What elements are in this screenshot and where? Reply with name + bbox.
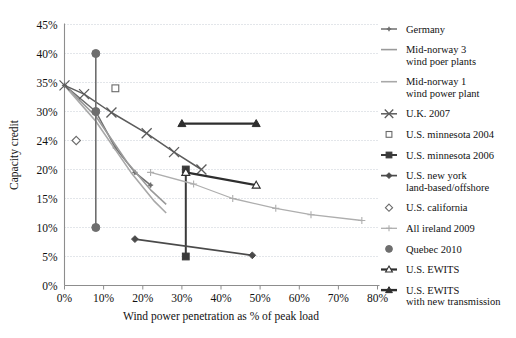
x-tick-label: 10% [93,292,115,304]
legend-label: U.S. EWITS [406,285,460,296]
y-tick-label: 45% [36,19,58,31]
x-tick-label: 0% [57,292,73,304]
legend-label: All ireland 2009 [406,223,475,234]
legend-label: Mid-norway 3 [406,44,466,55]
y-tick-label: 35% [36,77,58,89]
legend-label: Germany [406,24,446,35]
x-tick-label: 50% [250,292,272,304]
legend-label: land-based/offshore [406,182,490,193]
x-tick-label: 80% [367,292,389,304]
chart-canvas: 0%10%20%30%40%50%60%70%80%0%5%10%15%20%2… [0,0,516,338]
series-4 [112,85,119,92]
y-tick-label: 10% [36,222,58,234]
y-tick-label: 40% [36,48,58,60]
legend-label: U.S. EWITS [406,264,460,275]
x-tick-label: 70% [328,292,350,304]
legend-label: U.S. minnesota 2006 [406,150,494,161]
x-tick-label: 30% [171,292,193,304]
legend-swatch-marker [386,152,392,158]
legend-label: U.S. california [406,202,468,213]
y-axis-title: Capacity credit [8,119,21,190]
y-tick-label: 30% [36,106,58,118]
y-tick-label: 24% [36,135,58,147]
legend-swatch-marker [386,246,393,253]
x-tick-label: 20% [132,292,154,304]
legend-label: wind poer plants [406,56,476,67]
y-tick-label: 0% [42,280,58,292]
legend-label: Quebec 2010 [406,244,462,255]
legend-label: U.S. new york [406,170,467,181]
legend-label: wind power plant [406,88,480,99]
x-tick-label: 60% [289,292,311,304]
capacity-credit-chart-figure: 0%10%20%30%40%50%60%70%80%0%5%10%15%20%2… [0,0,516,338]
legend-label: U.S. minnesota 2004 [406,129,495,140]
y-tick-label: 20% [36,164,58,176]
x-tick-label: 40% [210,292,232,304]
legend-label: Mid-norway 1 [406,76,466,87]
y-tick-label: 5% [42,251,58,263]
legend-label: with new transmission [406,296,501,307]
legend-swatch-marker [386,132,392,138]
x-axis-title: Wind power penetration as % of peak load [123,310,319,323]
y-tick-label: 15% [36,193,58,205]
legend-label: U.K. 2007 [406,108,450,119]
